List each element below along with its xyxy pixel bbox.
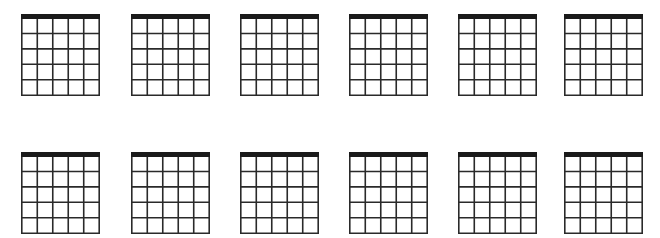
nut-bar bbox=[131, 152, 210, 157]
chord-chart-r1-c4 bbox=[349, 14, 428, 96]
nut-bar bbox=[349, 152, 428, 157]
nut-bar bbox=[564, 14, 643, 19]
chord-chart-r2-c5 bbox=[458, 152, 537, 234]
chord-chart-r1-c5 bbox=[458, 14, 537, 96]
fret-grid bbox=[21, 156, 100, 234]
chord-chart-r1-c3 bbox=[240, 14, 319, 96]
fret-grid bbox=[349, 18, 428, 96]
chord-chart-r1-c1 bbox=[21, 14, 100, 96]
fret-grid bbox=[240, 156, 319, 234]
nut-bar bbox=[21, 152, 100, 157]
chord-chart-r2-c4 bbox=[349, 152, 428, 234]
nut-bar bbox=[349, 14, 428, 19]
nut-bar bbox=[240, 152, 319, 157]
fret-grid bbox=[564, 18, 643, 96]
nut-bar bbox=[458, 14, 537, 19]
nut-bar bbox=[564, 152, 643, 157]
nut-bar bbox=[21, 14, 100, 19]
chord-chart-r2-c3 bbox=[240, 152, 319, 234]
chord-chart-r1-c6 bbox=[564, 14, 643, 96]
nut-bar bbox=[458, 152, 537, 157]
fret-grid bbox=[458, 156, 537, 234]
fret-grid bbox=[21, 18, 100, 96]
fret-grid bbox=[349, 156, 428, 234]
chord-chart-r2-c1 bbox=[21, 152, 100, 234]
chord-chart-r2-c6 bbox=[564, 152, 643, 234]
fret-grid bbox=[564, 156, 643, 234]
fret-grid bbox=[131, 156, 210, 234]
chord-chart-r2-c2 bbox=[131, 152, 210, 234]
fret-grid bbox=[131, 18, 210, 96]
nut-bar bbox=[131, 14, 210, 19]
fret-grid bbox=[458, 18, 537, 96]
nut-bar bbox=[240, 14, 319, 19]
fret-grid bbox=[240, 18, 319, 96]
chord-chart-r1-c2 bbox=[131, 14, 210, 96]
